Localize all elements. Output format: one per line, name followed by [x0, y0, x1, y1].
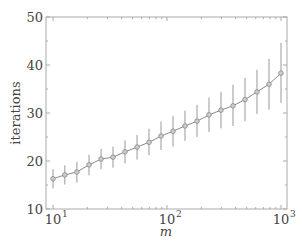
y-tick-label: 40 [26, 58, 43, 73]
y-tick-label: 10 [26, 202, 43, 217]
data-point-marker [63, 173, 68, 178]
x-tick-label: 10 [273, 212, 290, 227]
data-point-marker [195, 119, 200, 124]
y-tick-label: 20 [26, 154, 43, 169]
data-series [51, 43, 284, 188]
data-point-marker [75, 170, 80, 175]
svg-text:3: 3 [290, 209, 296, 219]
data-point-marker [183, 124, 188, 129]
data-point-marker [279, 71, 284, 76]
plot-area [46, 17, 287, 209]
iterations-vs-m-chart: 1020304050 101102103 iterations m [0, 0, 302, 242]
y-tick-label: 50 [26, 10, 43, 25]
data-point-marker [159, 134, 164, 139]
data-point-marker [135, 145, 140, 150]
svg-text:2: 2 [176, 209, 182, 219]
x-tick-label: 10 [45, 212, 62, 227]
data-point-marker [255, 90, 260, 95]
axis-ticks [46, 17, 287, 209]
data-point-marker [51, 176, 56, 181]
data-point-marker [123, 150, 128, 155]
data-point-marker [207, 113, 212, 118]
data-point-marker [243, 97, 248, 102]
data-point-marker [99, 157, 104, 162]
data-point-marker [219, 108, 224, 113]
data-point-marker [147, 140, 152, 145]
data-point-marker [87, 163, 92, 168]
data-point-marker [111, 155, 116, 160]
y-axis-label: iterations [8, 81, 23, 144]
data-point-marker [231, 104, 236, 109]
data-point-marker [267, 82, 272, 87]
data-point-marker [171, 129, 176, 134]
y-tick-labels: 1020304050 [26, 10, 43, 217]
y-tick-label: 30 [26, 106, 43, 121]
svg-text:1: 1 [62, 209, 68, 219]
x-axis-label: m [160, 224, 172, 239]
